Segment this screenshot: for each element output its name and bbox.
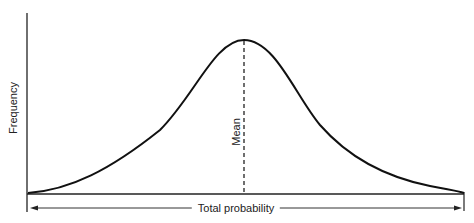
distribution-curve [28,40,464,193]
arrow-left-head [30,206,38,211]
x-axis-label: Total probability [192,202,280,214]
y-axis-label: Frequency [7,82,19,134]
arrow-right-head [454,206,462,211]
distribution-diagram [0,0,474,223]
mean-label: Mean [230,118,242,146]
